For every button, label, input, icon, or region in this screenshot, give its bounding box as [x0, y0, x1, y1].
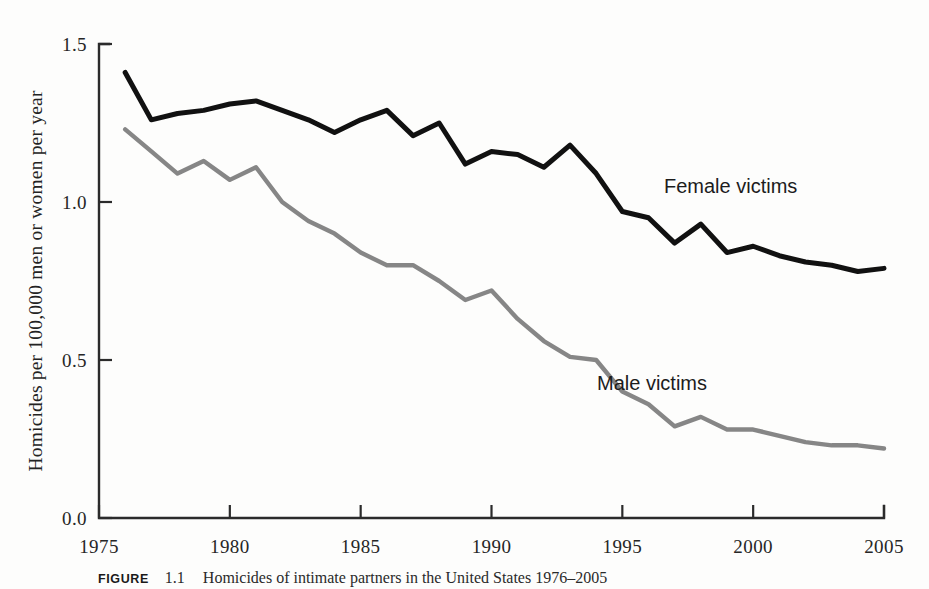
x-axis-ticks: [99, 505, 884, 518]
figure-container: 0.00.51.01.5 197519801985199019952000200…: [0, 0, 929, 589]
y-tick-label: 0.0: [62, 508, 87, 529]
y-axis-tick-labels: 0.00.51.01.5: [62, 34, 87, 529]
axis-lines: [99, 44, 884, 518]
figure-caption: FIGURE1.1Homicides of intimate partners …: [98, 569, 918, 587]
y-axis-title-group: Homicides per 100,000 men or women per y…: [25, 90, 46, 471]
x-tick-label: 2005: [864, 536, 904, 557]
y-axis-ticks: [99, 44, 112, 518]
caption-number: 1.1: [165, 569, 185, 586]
series-label-female: Female victims: [664, 175, 797, 197]
data-series-group: [125, 72, 884, 448]
x-tick-label: 2000: [733, 536, 773, 557]
x-tick-label: 1995: [603, 536, 643, 557]
caption-label: FIGURE: [98, 572, 149, 586]
y-axis-title: Homicides per 100,000 men or women per y…: [25, 90, 46, 471]
x-tick-label: 1985: [341, 536, 381, 557]
x-tick-label: 1975: [79, 536, 119, 557]
y-tick-label: 1.0: [62, 192, 87, 213]
x-tick-label: 1990: [472, 536, 512, 557]
x-tick-label: 1980: [210, 536, 250, 557]
series-line-female-victims: [125, 72, 884, 271]
y-tick-label: 1.5: [62, 34, 87, 55]
y-tick-label: 0.5: [62, 350, 87, 371]
plot-axes: [99, 44, 884, 518]
x-axis-tick-labels: 1975198019851990199520002005: [79, 536, 904, 557]
caption-body: Homicides of intimate partners in the Un…: [203, 569, 607, 586]
chart-canvas: 0.00.51.01.5 197519801985199019952000200…: [0, 0, 929, 589]
series-label-male: Male victims: [597, 372, 707, 394]
